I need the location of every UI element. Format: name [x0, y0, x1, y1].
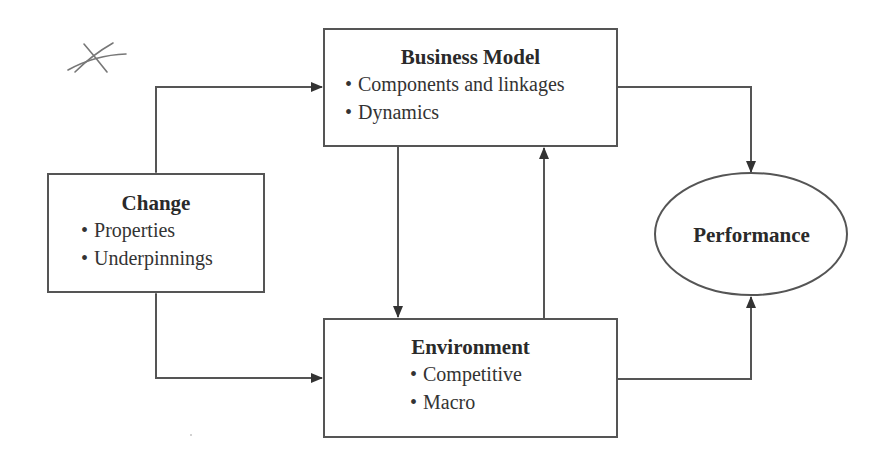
business-model-bullets: Components and linkages Dynamics	[345, 70, 616, 126]
environment-node: Environment Competitive Macro	[323, 318, 618, 438]
bullet-item: Properties	[81, 216, 263, 244]
environment-title: Environment	[325, 334, 616, 360]
change-node: Change Properties Underpinnings	[47, 173, 265, 293]
business-model-node: Business Model Components and linkages D…	[323, 28, 618, 147]
business-model-title: Business Model	[325, 44, 616, 70]
change-bullets: Properties Underpinnings	[81, 216, 263, 272]
edge-change-environment	[156, 294, 322, 378]
performance-title: Performance	[693, 222, 810, 248]
performance-node: Performance	[655, 173, 848, 296]
change-title: Change	[49, 190, 263, 216]
bullet-item: Underpinnings	[81, 244, 263, 272]
edge-environment-performance	[618, 297, 751, 379]
edge-change-business-model	[156, 87, 322, 172]
bullet-item: Macro	[410, 388, 616, 416]
stray-dot	[190, 434, 192, 436]
edge-business-model-performance	[618, 87, 751, 172]
hand-drawn-x-mark-icon	[68, 43, 126, 72]
environment-bullets: Competitive Macro	[410, 360, 616, 416]
bullet-item: Dynamics	[345, 98, 616, 126]
bullet-item: Components and linkages	[345, 70, 616, 98]
bullet-item: Competitive	[410, 360, 616, 388]
